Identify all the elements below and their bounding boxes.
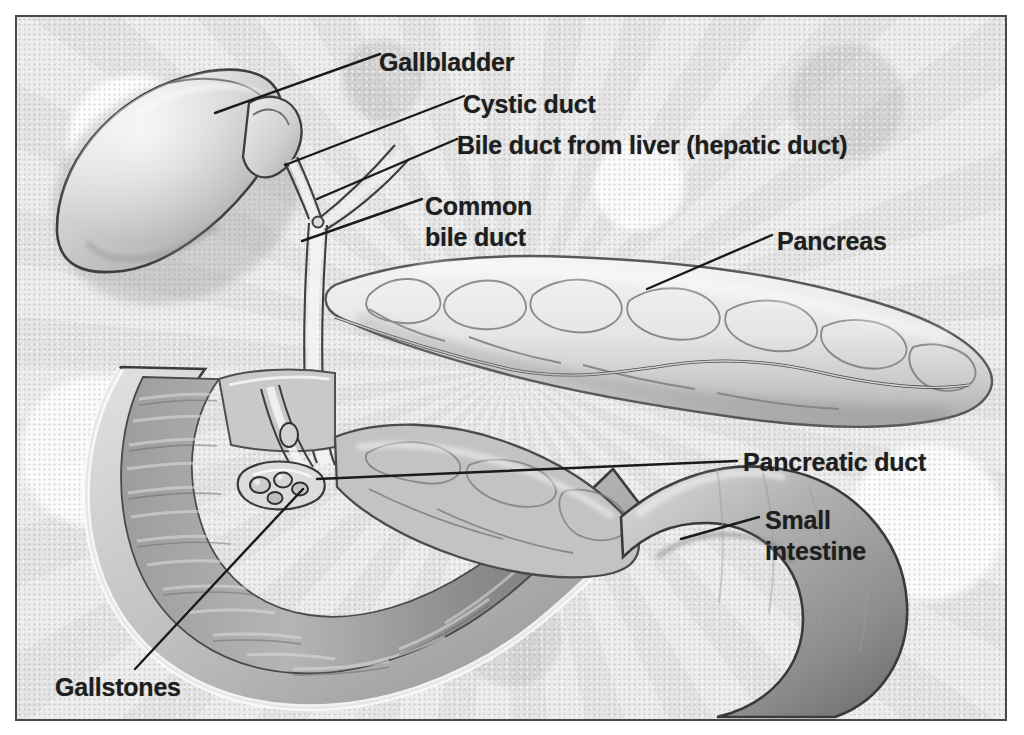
label-common-bile-duct-line1: Common bbox=[425, 191, 532, 221]
label-gallstones: Gallstones bbox=[55, 672, 181, 702]
label-hepatic-duct: Bile duct from liver (hepatic duct) bbox=[457, 130, 847, 160]
label-common-bile-duct-line2: bile duct bbox=[425, 222, 526, 252]
label-pancreatic-duct: Pancreatic duct bbox=[743, 447, 926, 477]
duct-y-junction bbox=[313, 217, 324, 228]
leader-hepatic-duct bbox=[317, 139, 457, 199]
gallstone-1 bbox=[250, 477, 270, 493]
gallstone-2-glint bbox=[277, 474, 282, 479]
gallstone-in-duct bbox=[280, 423, 298, 447]
label-small-intestine-line1: Small bbox=[765, 505, 831, 535]
anatomy-artwork bbox=[17, 17, 1005, 719]
label-cystic-duct: Cystic duct bbox=[463, 89, 596, 119]
gallstone-1-glint bbox=[254, 479, 260, 485]
label-pancreas: Pancreas bbox=[777, 226, 887, 256]
illustration-frame: Gallbladder Cystic duct Bile duct from l… bbox=[15, 15, 1007, 721]
leader-cystic-duct bbox=[285, 96, 464, 165]
screenshot-root: Gallbladder Cystic duct Bile duct from l… bbox=[0, 0, 1024, 735]
gallstone-4 bbox=[268, 492, 283, 504]
label-gallbladder: Gallbladder bbox=[379, 47, 514, 77]
hepatic-duct-lumen bbox=[321, 152, 402, 225]
label-small-intestine-line2: intestine bbox=[765, 536, 866, 566]
pancreas-group bbox=[326, 256, 992, 427]
gallstone-2 bbox=[274, 473, 292, 488]
gallbladder-group bbox=[17, 35, 343, 349]
